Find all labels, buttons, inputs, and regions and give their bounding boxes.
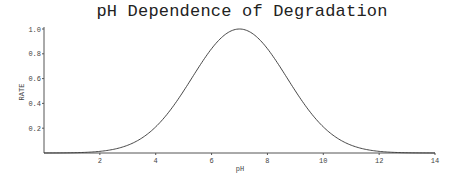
y-tick-label: 0.8 (28, 50, 41, 58)
x-tick-label: 14 (431, 157, 439, 165)
x-ticks: 2468101214 (98, 153, 439, 165)
x-tick-label: 2 (98, 157, 102, 165)
y-ticks: 0.20.40.60.81.0 (28, 26, 44, 133)
x-tick-label: 8 (265, 157, 269, 165)
y-tick-label: 0.4 (28, 100, 41, 108)
x-tick-label: 4 (154, 157, 158, 165)
y-tick-label: 1.0 (28, 26, 41, 34)
axes (44, 27, 435, 153)
x-axis-label: pH (236, 165, 244, 173)
y-tick-label: 0.6 (28, 75, 41, 83)
x-tick-label: 10 (319, 157, 327, 165)
x-tick-label: 12 (375, 157, 383, 165)
y-tick-label: 0.2 (28, 125, 41, 133)
y-axis-label: RATE (18, 84, 26, 101)
rate-curve (44, 29, 435, 153)
plot-area: 0.20.40.60.81.0 2468101214 RATE pH (0, 0, 460, 179)
x-tick-label: 6 (209, 157, 213, 165)
